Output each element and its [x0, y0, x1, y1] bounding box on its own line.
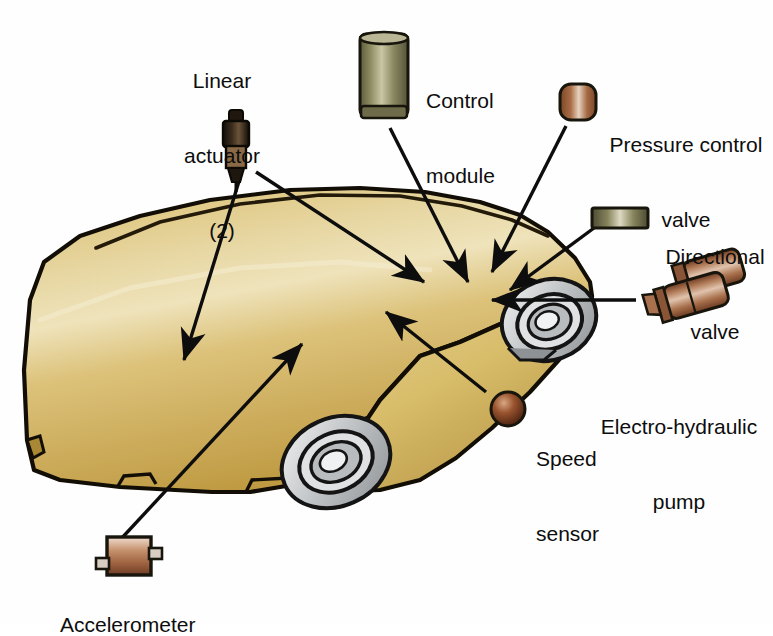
label-control-module-line1: Control [426, 88, 596, 113]
label-linear-actuator-line3: (2) [142, 218, 302, 243]
label-speed-sensor-line2: sensor [536, 521, 666, 546]
label-speed-sensor-line1: Speed [536, 446, 666, 471]
control-module-icon [360, 32, 408, 118]
label-accelerometer-line1: Accelerometer [60, 612, 280, 636]
label-pressure-control-valve-line1: Pressure control [598, 132, 773, 157]
label-directional-valve-line1: Directional [656, 244, 773, 269]
label-speed-sensor: Speed sensor [536, 396, 666, 596]
label-directional-valve-line2: valve [656, 319, 773, 344]
speed-sensor-icon [491, 392, 525, 426]
label-linear-actuator-line2: actuator [142, 143, 302, 168]
label-linear-actuator: Linear actuator (2) [142, 18, 302, 293]
label-control-module: Control module [426, 38, 596, 238]
label-control-module-line2: module [426, 163, 596, 188]
label-linear-actuator-line1: Linear [142, 68, 302, 93]
label-accelerometer: Accelerometer [60, 562, 280, 636]
